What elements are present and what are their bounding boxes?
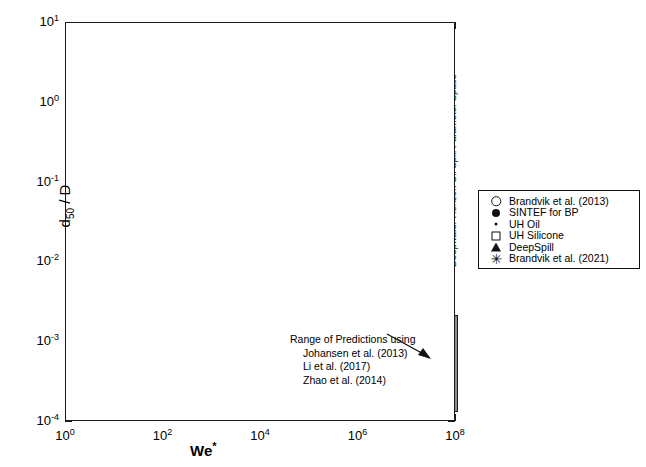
legend-row-2: UH Oil xyxy=(483,218,634,230)
legend-marker-open-circle xyxy=(483,195,509,207)
x-axis-label: We* xyxy=(190,440,217,459)
y-tick-label-5: 10-4 xyxy=(23,412,59,428)
x-tick-label-1: 102 xyxy=(147,427,179,443)
y-axis-label: d50 / D xyxy=(56,136,76,276)
marker-star: ✳ xyxy=(491,253,502,264)
legend-row-3: UH Silicone xyxy=(483,230,634,242)
x-tick-label-4: 108 xyxy=(439,427,471,443)
x-tick-label-0: 100 xyxy=(49,427,81,443)
y-tick-right xyxy=(448,421,455,422)
legend: Brandvik et al. (2013)SINTEF for BPUH Oi… xyxy=(478,190,640,269)
x-tick-label-3: 106 xyxy=(342,427,374,443)
y-tick xyxy=(65,421,72,422)
annotation-line-4: Zhao et al. (2014) xyxy=(290,374,416,388)
legend-label-5: Brandvik et al. (2021) xyxy=(509,252,609,264)
legend-label-3: UH Silicone xyxy=(509,229,564,241)
y-tick-label-0: 101 xyxy=(23,13,59,29)
legend-row-4: DeepSpill xyxy=(483,241,634,253)
y-tick-label-2: 10-1 xyxy=(23,173,59,189)
legend-label-1: SINTEF for BP xyxy=(509,206,578,218)
x-axis-label-main: We xyxy=(190,442,212,459)
annotation-arrow-icon xyxy=(385,330,445,366)
marker-open-circle xyxy=(491,196,501,206)
legend-label-2: UH Oil xyxy=(509,218,540,230)
figure-root: Deepwater Horizon Oil Spill Parameter Sp… xyxy=(0,0,646,467)
legend-marker-open-square xyxy=(483,230,509,242)
legend-row-0: Brandvik et al. (2013) xyxy=(483,195,634,207)
marker-filled-circle xyxy=(492,209,500,217)
legend-label-4: DeepSpill xyxy=(509,241,554,253)
x-axis-label-sup: * xyxy=(212,440,216,452)
x-tick-top-1e8 xyxy=(455,22,456,29)
legend-row-1: SINTEF for BP xyxy=(483,207,634,219)
y-axis-label-main: d xyxy=(56,219,73,227)
legend-marker-dot xyxy=(483,218,509,230)
y-tick-label-4: 10-3 xyxy=(23,332,59,348)
legend-row-5: ✳Brandvik et al. (2021) xyxy=(483,253,634,265)
y-tick-label-1: 100 xyxy=(23,93,59,109)
marker-open-square xyxy=(492,231,501,240)
x-tick-label-2: 104 xyxy=(244,427,276,443)
legend-marker-star: ✳ xyxy=(483,253,509,265)
legend-label-0: Brandvik et al. (2013) xyxy=(509,195,609,207)
marker-dot xyxy=(495,223,498,226)
y-tick-label-3: 10-2 xyxy=(23,252,59,268)
legend-marker-filled-circle xyxy=(483,207,509,219)
x-tick-1e8 xyxy=(455,414,456,421)
y-axis-label-sub: 50 xyxy=(65,208,76,219)
